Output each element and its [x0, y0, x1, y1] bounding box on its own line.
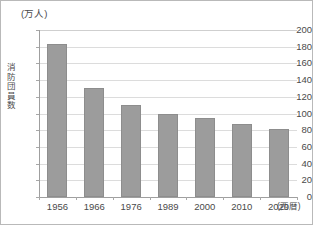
bar: [232, 124, 252, 197]
x-axis-tick-mark: [297, 197, 298, 200]
bar: [195, 118, 215, 197]
x-axis-tick-label: 1956: [47, 201, 68, 212]
bar-chart: (万人) 消防団員数 200180160140120100806040200 1…: [0, 0, 313, 225]
bar-series: [39, 30, 297, 197]
x-axis-tick-mark: [76, 197, 77, 200]
bar: [269, 129, 289, 197]
x-axis-tick-label: 1976: [121, 201, 142, 212]
x-axis-tick-mark: [150, 197, 151, 200]
x-axis-tick-mark: [113, 197, 114, 200]
y-axis-unit-caption: (万人): [21, 8, 47, 19]
x-axis-line: [39, 197, 297, 198]
bar: [121, 105, 141, 197]
x-axis-tick-label: 1989: [157, 201, 178, 212]
bar: [47, 44, 67, 197]
x-axis-tick-label: 2010: [231, 201, 252, 212]
x-axis-tick-mark: [260, 197, 261, 200]
x-axis-title: (西暦): [277, 201, 301, 212]
bar: [158, 114, 178, 198]
x-axis-tick-label: 2000: [194, 201, 215, 212]
x-axis-tick-label: 1966: [84, 201, 105, 212]
x-axis-tick-mark: [223, 197, 224, 200]
bar: [84, 88, 104, 197]
y-axis-title: 消防団員数: [4, 63, 18, 111]
x-axis-tick-mark: [39, 197, 40, 200]
x-axis-tick-mark: [186, 197, 187, 200]
